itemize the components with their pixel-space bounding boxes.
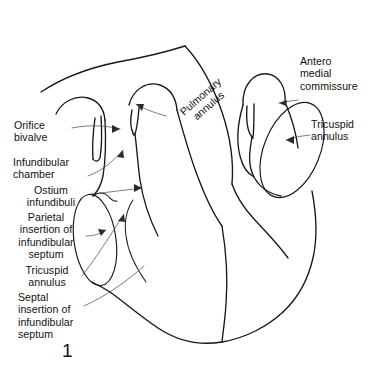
label-parietal-insertion-of-infundibular-septum: Parietal insertion of infundibular septu… xyxy=(4,211,88,261)
figure-number: 1 xyxy=(62,341,73,360)
label-septal-insertion-of-infundibular-septum: Septal insertion of infundibular septum xyxy=(18,291,100,341)
label-infundibular-chamber: Infundibular chamber xyxy=(13,156,97,181)
label-orifice-bivalve: Orifice bivalve xyxy=(14,119,92,144)
label-ostium-infundibuli: Ostium infundibuli xyxy=(10,184,92,209)
inferior-border-outline xyxy=(92,191,316,343)
tricuspid-annulus-ellipse-right xyxy=(247,93,336,207)
leader-lines xyxy=(72,100,310,306)
label-antero-medial-commissure: Antero medial commissure xyxy=(300,55,376,92)
label-tricuspid-annulus-right: Tricuspid annulus xyxy=(311,118,376,143)
label-tricuspid-annulus-left: Tricuspid annulus xyxy=(8,264,86,289)
anatomical-figure: Orifice bivalve Infundibular chamber Ost… xyxy=(0,0,376,371)
